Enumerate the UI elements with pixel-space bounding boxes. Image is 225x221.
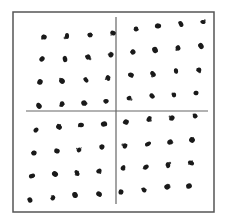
dot-pattern-figure [0, 0, 225, 221]
